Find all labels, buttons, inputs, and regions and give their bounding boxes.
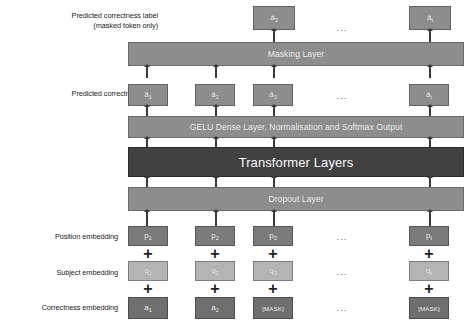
arrow-transformer-to-gelu-t xyxy=(429,139,431,147)
predicted-token-2-label: â2 xyxy=(211,90,219,100)
label-masked-prediction: Predicted correctness label (masked toke… xyxy=(8,11,158,30)
transformer-layers-bar: Transformer Layers xyxy=(128,147,464,177)
arrow-position-3-to-dropout xyxy=(273,212,275,226)
arrow-prediction-3-to-masking xyxy=(273,67,275,78)
predicted-token-3: â3 xyxy=(253,84,293,106)
arrow-masking-to-masked-output-t xyxy=(429,31,431,42)
arrow-dropout-to-transformer-3 xyxy=(273,178,275,187)
transformer-layers-label: Transformer Layers xyxy=(239,155,354,170)
arrow-gelu-to-prediction-1 xyxy=(146,107,148,116)
token-sub: t xyxy=(430,270,432,276)
token-base: â xyxy=(269,90,273,99)
arrow-masking-to-masked-output-1 xyxy=(273,31,275,42)
masking-layer-bar: Masking Layer xyxy=(128,42,464,66)
arrow-dropout-to-transformer-1 xyxy=(146,178,148,187)
arrow-prediction-1-to-masking xyxy=(146,67,148,78)
correctness-embedding-1: a1 xyxy=(128,297,168,319)
ellipsis-prediction-row: ... xyxy=(325,92,359,101)
token-sub: 1 xyxy=(149,270,152,276)
predicted-token-t: ât xyxy=(409,84,449,106)
subject-embedding-1: q1 xyxy=(128,261,168,281)
arrow-transformer-to-gelu-3 xyxy=(273,139,275,147)
label-subject-embedding: Subject embedding xyxy=(8,268,118,278)
position-embedding-2-label: p2 xyxy=(211,231,219,241)
position-embedding-2: p2 xyxy=(195,226,235,246)
subject-embedding-3-label: q3 xyxy=(269,266,277,276)
plus-position-subject-2: + xyxy=(206,246,224,262)
plus-subject-correctness-1: + xyxy=(139,281,157,297)
label-position-embedding: Position embedding xyxy=(8,232,118,242)
subject-embedding-3: q3 xyxy=(253,261,293,281)
predicted-token-t-label: ât xyxy=(426,90,432,100)
predicted-token-1-label: â1 xyxy=(144,90,152,100)
token-sub: 3 xyxy=(274,94,277,100)
arrow-prediction-t-to-masking xyxy=(429,67,431,78)
token-sub: t xyxy=(430,235,432,241)
dropout-layer-label: Dropout Layer xyxy=(268,194,323,204)
token-sub: 2 xyxy=(216,270,219,276)
position-embedding-3-label: p3 xyxy=(269,231,277,241)
gelu-dense-layer-bar: GELU Dense Layer, Normalisation and Soft… xyxy=(128,116,464,138)
masked-output-token-1-label: â3 xyxy=(270,13,278,23)
plus-subject-correctness-t: + xyxy=(420,281,438,297)
token-sub: t xyxy=(431,17,433,23)
token-sub: 2 xyxy=(216,307,219,313)
arrow-gelu-to-prediction-2 xyxy=(215,107,217,116)
correctness-embedding-t-label: [MASK] xyxy=(418,305,440,312)
predicted-token-1: â1 xyxy=(128,84,168,106)
token-base: â xyxy=(426,90,430,99)
ellipsis-correctness-row: ... xyxy=(325,304,359,313)
subject-embedding-t: qt xyxy=(409,261,449,281)
arrow-position-2-to-dropout xyxy=(215,212,217,226)
arrow-transformer-to-gelu-2 xyxy=(215,139,217,147)
token-sub: 1 xyxy=(149,235,152,241)
correctness-embedding-3-label: [MASK] xyxy=(262,305,284,312)
ellipsis-masked-output-row: ... xyxy=(325,24,359,33)
plus-position-subject-t: + xyxy=(420,246,438,262)
gelu-dense-layer-label: GELU Dense Layer, Normalisation and Soft… xyxy=(190,122,403,132)
masked-output-token-1: â3 xyxy=(253,6,295,30)
token-base: â xyxy=(211,90,215,99)
token-base: â xyxy=(270,13,274,22)
token-sub: t xyxy=(430,94,432,100)
masked-output-token-t: ât xyxy=(409,6,451,30)
arrow-transformer-to-gelu-1 xyxy=(146,139,148,147)
position-embedding-3: p3 xyxy=(253,226,293,246)
ellipsis-position-row: ... xyxy=(325,233,359,242)
correctness-embedding-3-mask: [MASK] xyxy=(253,297,293,319)
masking-layer-label: Masking Layer xyxy=(268,49,325,59)
arrow-gelu-to-prediction-t xyxy=(429,107,431,116)
arrow-dropout-to-transformer-t xyxy=(429,178,431,187)
subject-embedding-2: q2 xyxy=(195,261,235,281)
predicted-token-3-label: â3 xyxy=(269,90,277,100)
subject-embedding-2-label: q2 xyxy=(211,266,219,276)
arrow-gelu-to-prediction-3 xyxy=(273,107,275,116)
arrow-position-1-to-dropout xyxy=(146,212,148,226)
correctness-embedding-2: a2 xyxy=(195,297,235,319)
token-base: â xyxy=(427,13,431,22)
arrow-prediction-2-to-masking xyxy=(215,67,217,78)
token-sub: 2 xyxy=(216,94,219,100)
plus-position-subject-3: + xyxy=(264,246,282,262)
correctness-embedding-2-label: a2 xyxy=(211,303,219,313)
token-sub: 3 xyxy=(274,235,277,241)
label-correctness-embedding: Correctness embedding xyxy=(4,303,118,313)
arrow-dropout-to-transformer-2 xyxy=(215,178,217,187)
dropout-layer-bar: Dropout Layer xyxy=(128,187,464,211)
position-embedding-1-label: p1 xyxy=(144,231,152,241)
token-sub: 2 xyxy=(216,235,219,241)
position-embedding-t-label: pt xyxy=(426,231,432,241)
token-base: â xyxy=(144,90,148,99)
token-sub: 3 xyxy=(274,270,277,276)
token-sub: 3 xyxy=(275,17,278,23)
position-embedding-1: p1 xyxy=(128,226,168,246)
ellipsis-subject-row: ... xyxy=(325,268,359,277)
correctness-embedding-t-mask: [MASK] xyxy=(409,297,449,319)
token-sub: 1 xyxy=(149,94,152,100)
masked-output-token-t-label: ât xyxy=(427,13,433,23)
subject-embedding-t-label: qt xyxy=(426,266,432,276)
token-sub: 1 xyxy=(149,307,152,313)
plus-subject-correctness-2: + xyxy=(206,281,224,297)
plus-subject-correctness-3: + xyxy=(264,281,282,297)
architecture-diagram: Predicted correctness label (masked toke… xyxy=(0,0,470,334)
